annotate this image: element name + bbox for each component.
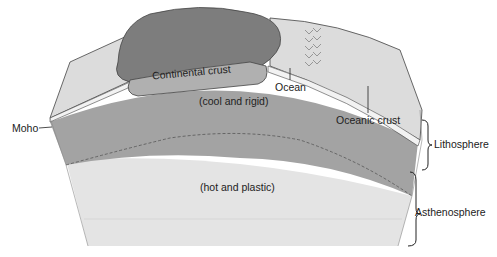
hot-plastic-label: (hot and plastic) xyxy=(200,182,275,193)
lithosphere-label: Lithosphere xyxy=(434,139,489,150)
cool-rigid-label: (cool and rigid) xyxy=(199,96,268,107)
ocean-label: Ocean xyxy=(275,82,306,93)
asthenosphere-label: Asthenosphere xyxy=(415,207,486,218)
oceanic-crust-label: Oceanic crust xyxy=(336,115,400,126)
moho-leader-line xyxy=(39,127,52,128)
lithosphere-brace xyxy=(422,120,432,170)
earth-layers-diagram: Continental crust Ocean (cool and rigid)… xyxy=(0,0,497,257)
moho-label: Moho xyxy=(12,123,38,134)
cross-section-graphic xyxy=(0,0,497,257)
